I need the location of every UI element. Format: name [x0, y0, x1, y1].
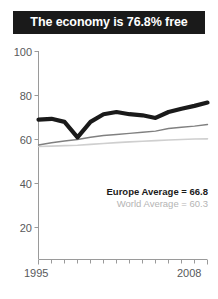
- legend-item-europe-average: Europe Average = 66.8: [95, 186, 208, 198]
- y-tick-label-100: 100: [4, 47, 32, 58]
- series-line-country: [39, 103, 208, 138]
- plot-area: 100 80 60 40 20 1995 2008 Europe Average…: [0, 0, 218, 299]
- economic-freedom-chart-card: The economy is 76.8% free: [0, 0, 218, 299]
- y-tick-label-60: 60: [4, 135, 32, 146]
- x-tick-label-start: 1995: [24, 268, 48, 279]
- y-tick-label-20: 20: [4, 223, 32, 234]
- series-line-world-average: [39, 139, 208, 147]
- chart-svg: [0, 0, 218, 299]
- y-tick-label-80: 80: [4, 91, 32, 102]
- legend-item-world-average: World Average = 60.3: [95, 198, 208, 210]
- y-tick-label-40: 40: [4, 179, 32, 190]
- x-tick-label-end: 2008: [177, 268, 201, 279]
- chart-legend: Europe Average = 66.8 World Average = 60…: [95, 186, 208, 210]
- x-tick-marks: [39, 260, 208, 265]
- y-tick-marks: [35, 52, 39, 228]
